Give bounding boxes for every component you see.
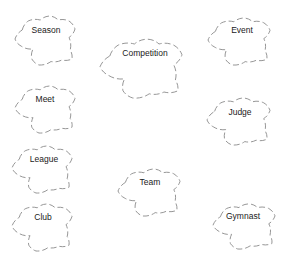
node-label-league: League xyxy=(30,154,58,164)
node-label-judge: Judge xyxy=(228,107,251,117)
cloud-node-judge xyxy=(207,98,270,145)
node-label-gymnast: Gymnast xyxy=(226,211,260,221)
cloud-node-season xyxy=(15,16,75,65)
node-label-event: Event xyxy=(231,25,253,35)
node-label-team: Team xyxy=(140,177,161,187)
node-label-meet: Meet xyxy=(36,94,55,104)
node-label-competition: Competition xyxy=(122,48,167,58)
node-label-season: Season xyxy=(32,25,61,35)
node-label-club: Club xyxy=(34,212,51,222)
